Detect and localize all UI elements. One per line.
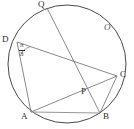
geometry-figure: Q O D C A B P π 3 xyxy=(0,0,134,129)
angle-denominator: 3 xyxy=(19,51,25,58)
angle-label-pi-over-3: π 3 xyxy=(19,42,25,58)
point-label-D: D xyxy=(2,35,9,44)
angle-numerator: π xyxy=(19,42,25,49)
point-label-P: P xyxy=(81,87,86,96)
point-label-B: B xyxy=(103,112,109,121)
point-label-O: O xyxy=(104,23,111,32)
point-label-A: A xyxy=(21,112,28,121)
point-label-C: C xyxy=(120,70,126,79)
segment-BC xyxy=(100,76,117,113)
figure-canvas xyxy=(0,0,134,129)
segment-AC xyxy=(31,76,117,112)
segment-AB xyxy=(31,112,100,113)
point-label-Q: Q xyxy=(38,0,45,9)
segment-QB xyxy=(47,8,100,113)
